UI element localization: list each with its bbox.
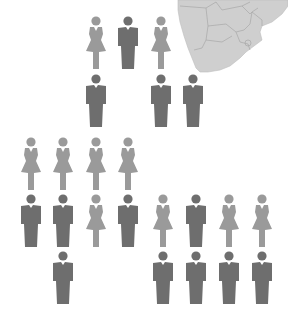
male-person-icon xyxy=(250,251,274,305)
male-person-icon xyxy=(151,251,175,305)
southern-africa-map xyxy=(0,0,288,80)
female-person-icon xyxy=(84,16,108,70)
male-person-icon xyxy=(184,251,208,305)
male-person-icon xyxy=(19,194,43,248)
male-person-icon xyxy=(51,251,75,305)
male-person-icon xyxy=(84,74,108,128)
female-person-icon xyxy=(84,137,108,191)
male-person-icon xyxy=(181,74,205,128)
male-person-icon xyxy=(184,194,208,248)
male-person-icon xyxy=(116,194,140,248)
male-person-icon xyxy=(217,251,241,305)
male-person-icon xyxy=(51,194,75,248)
female-person-icon xyxy=(19,137,43,191)
male-person-icon xyxy=(149,74,173,128)
female-person-icon xyxy=(250,194,274,248)
female-person-icon xyxy=(217,194,241,248)
map-landmass xyxy=(178,0,288,72)
female-person-icon xyxy=(151,194,175,248)
female-person-icon xyxy=(149,16,173,70)
female-person-icon xyxy=(116,137,140,191)
female-person-icon xyxy=(84,194,108,248)
female-person-icon xyxy=(51,137,75,191)
male-person-icon xyxy=(116,16,140,70)
